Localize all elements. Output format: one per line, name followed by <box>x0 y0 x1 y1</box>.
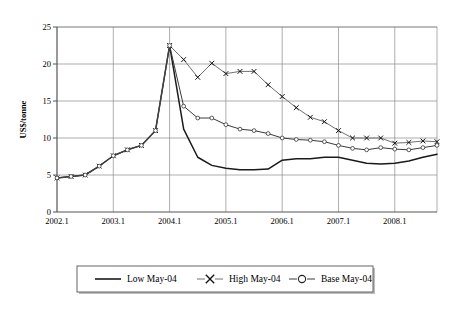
series-line <box>57 46 437 178</box>
x-axis-ticks: 2002.12003.12004.12005.12006.12007.12008… <box>45 216 406 226</box>
marker-circle <box>210 116 214 120</box>
legend-label: Base May-04 <box>321 274 372 284</box>
marker-circle <box>435 144 439 148</box>
marker-circle <box>252 129 256 133</box>
y-axis-title: US$/tonne <box>18 100 28 138</box>
legend-item-base-may-04[interactable]: Base May-04 <box>289 274 372 284</box>
marker-circle <box>224 123 228 127</box>
gridlines <box>57 27 437 212</box>
marker-circle <box>337 144 341 148</box>
series-line <box>57 46 437 178</box>
marker-circle <box>238 127 242 131</box>
plot-frame <box>57 27 437 212</box>
y-tick-label: 20 <box>43 59 52 69</box>
marker-circle <box>308 138 312 142</box>
marker-circle <box>111 154 115 158</box>
marker-circle <box>154 129 158 133</box>
marker-circle <box>125 148 129 152</box>
legend-label: High May-04 <box>229 274 281 284</box>
x-tick-label: 2005.1 <box>214 216 237 226</box>
x-tick-label: 2007.1 <box>327 216 350 226</box>
y-tick-label: 5 <box>47 170 51 180</box>
chart-figure: 05101520252002.12003.12004.12005.12006.1… <box>0 0 450 309</box>
x-tick-label: 2002.1 <box>45 216 68 226</box>
marker-circle <box>421 146 425 150</box>
marker-circle <box>140 144 144 148</box>
marker-circle <box>323 140 327 144</box>
marker-circle <box>55 176 59 180</box>
marker-circle <box>266 132 270 136</box>
line-chart: 05101520252002.12003.12004.12005.12006.1… <box>0 0 450 309</box>
marker-circle <box>379 146 383 150</box>
marker-circle <box>365 148 369 152</box>
y-tick-label: 25 <box>43 22 52 32</box>
x-tick-label: 2003.1 <box>102 216 125 226</box>
x-tick-label: 2006.1 <box>270 216 293 226</box>
y-tick-label: 15 <box>43 96 52 106</box>
x-tick-label: 2004.1 <box>158 216 181 226</box>
marker-circle <box>393 147 397 151</box>
marker-circle <box>168 44 172 48</box>
x-tick-label: 2008.1 <box>383 216 406 226</box>
legend-label: Low May-04 <box>127 274 177 284</box>
marker-circle <box>97 164 101 168</box>
y-axis-title-text: US$/tonne <box>18 100 28 138</box>
marker-circle <box>407 148 411 152</box>
marker-circle <box>69 175 73 179</box>
y-axis-ticks: 0510152025 <box>43 22 58 217</box>
marker-circle <box>182 104 186 108</box>
marker-circle <box>351 146 355 150</box>
legend-marker-circle <box>298 275 305 282</box>
legend: Low May-04High May-04Base May-04 <box>77 266 375 294</box>
axes <box>57 27 437 212</box>
marker-circle <box>83 173 87 177</box>
marker-circle <box>196 116 200 120</box>
marker-circle <box>280 136 284 140</box>
marker-circle <box>294 138 298 142</box>
y-tick-label: 10 <box>43 133 52 143</box>
series-low-may-04 <box>57 46 437 178</box>
series-line <box>57 46 437 178</box>
